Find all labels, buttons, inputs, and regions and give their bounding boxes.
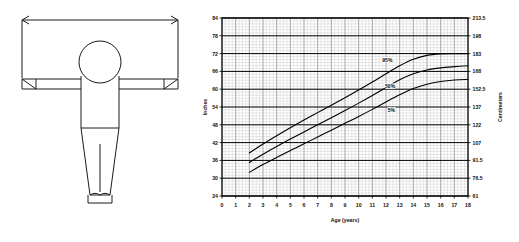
x-tick: 6 — [303, 202, 306, 208]
x-tick: 13 — [397, 202, 403, 208]
y-tick-left: 36 — [212, 157, 218, 163]
x-tick: 14 — [410, 202, 416, 208]
curve-label-5: 5% — [388, 107, 396, 113]
x-tick: 0 — [221, 202, 224, 208]
x-tick: 9 — [344, 202, 347, 208]
y-tick-right: 122 — [473, 122, 482, 128]
y-tick-right: 213.5 — [473, 15, 486, 21]
y-tick-right: 183 — [473, 51, 482, 57]
y-tick-left: 48 — [212, 122, 218, 128]
curve-label-95: 95% — [382, 57, 393, 63]
x-tick: 3 — [262, 202, 265, 208]
y-tick-left: 66 — [212, 68, 218, 74]
left-arm — [22, 79, 81, 89]
y-tick-right: 61 — [473, 193, 479, 199]
y-tick-right: 152.5 — [473, 86, 486, 92]
x-tick: 10 — [356, 202, 362, 208]
x-tick: 4 — [275, 202, 278, 208]
y-tick-left: 60 — [212, 86, 218, 92]
x-tick: 16 — [438, 202, 444, 208]
x-tick: 7 — [316, 202, 319, 208]
x-axis-title: Age (years) — [331, 217, 360, 223]
y-axis-left-ticks: 2430364248546066727884 — [212, 15, 222, 199]
y-tick-right: 137 — [473, 104, 482, 110]
y-tick-left: 72 — [212, 51, 218, 57]
y-tick-left: 78 — [212, 33, 218, 39]
y-axis-left-title: Inches — [202, 99, 208, 116]
x-axis-ticks: 0123456789101112131415161718 — [221, 196, 471, 208]
y-tick-left: 42 — [212, 140, 218, 146]
y-tick-left: 54 — [212, 104, 218, 110]
head — [79, 41, 121, 83]
right-arm — [119, 79, 178, 89]
x-tick: 8 — [330, 202, 333, 208]
y-tick-left: 84 — [212, 15, 218, 21]
y-tick-right: 107 — [473, 140, 482, 146]
x-tick: 18 — [465, 202, 471, 208]
x-tick: 1 — [234, 202, 237, 208]
y-tick-left: 24 — [212, 193, 218, 199]
growth-chart-figure: 95%95%50%50%5%5% 2430364248546066727884 … — [0, 0, 519, 242]
y-tick-right: 76.5 — [473, 175, 483, 181]
measurement-arrow — [22, 16, 178, 78]
growth-chart-panel: 95%95%50%50%5%5% 2430364248546066727884 … — [200, 0, 519, 242]
x-tick: 15 — [424, 202, 430, 208]
right-hand-taper — [164, 79, 178, 89]
y-axis-right-title: Centimeters — [497, 92, 503, 122]
left-hand-taper — [22, 79, 36, 89]
y-tick-right: 91.5 — [473, 157, 483, 163]
arm-span-diagram — [0, 0, 200, 242]
y-tick-right: 198 — [473, 33, 482, 39]
arm-span-diagram-panel — [0, 0, 200, 242]
x-tick: 2 — [248, 202, 251, 208]
y-tick-right: 168 — [473, 68, 482, 74]
x-tick: 5 — [289, 202, 292, 208]
y-axis-right-ticks: 6176.591.5107122137152.5168183198213.5 — [468, 15, 486, 199]
growth-chart: 95%95%50%50%5%5% 2430364248546066727884 … — [200, 0, 519, 242]
curve-label-50: 50% — [385, 83, 396, 89]
torso — [81, 76, 119, 128]
x-tick: 12 — [383, 202, 389, 208]
x-tick: 11 — [370, 202, 376, 208]
y-tick-left: 30 — [212, 175, 218, 181]
x-tick: 17 — [451, 202, 457, 208]
